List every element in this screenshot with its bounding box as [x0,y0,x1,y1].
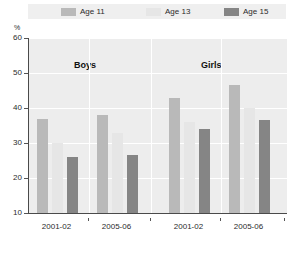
x-tick-label: 2001-02 [174,222,203,231]
bar-age-13-2001-02 [52,143,63,213]
gridline-vertical [151,38,152,213]
chart-legend: Age 11 Age 13 Age 15 [28,4,286,19]
group-label-boys: Boys [74,60,96,70]
gridline-horizontal [29,38,287,39]
bar-age-15-2005-06 [259,120,270,213]
bar-age-11-2005-06 [229,85,240,213]
x-tick-mark [88,218,89,221]
y-tick-label: 20 [13,174,22,182]
bar-age-15-2005-06 [127,155,138,213]
gridline-vertical [221,38,222,213]
bar-age-11-2001-02 [169,98,180,214]
legend-swatch-age-15 [224,8,239,16]
legend-label-age-11: Age 11 [80,8,105,16]
bar-age-13-2005-06 [112,133,123,214]
y-tick-label: 40 [13,104,22,112]
x-tick-label: 2005-06 [102,222,131,231]
x-tick-mark [284,218,285,221]
x-tick-label: 2001-02 [42,222,71,231]
x-tick-mark [220,218,221,221]
legend-swatch-age-13 [146,8,161,16]
plot-area: Boys Girls [28,38,287,214]
group-label-girls: Girls [201,60,222,70]
legend-label-age-15: Age 15 [243,8,268,16]
y-tick-label: 50 [13,69,22,77]
y-tick-label: 30 [13,139,22,147]
bar-age-13-2005-06 [244,108,255,213]
bar-age-13-2001-02 [184,122,195,213]
legend-item-age-11: Age 11 [61,4,105,19]
x-tick-mark [150,218,151,221]
y-axis: 605040302010 [0,30,28,220]
bar-age-11-2001-02 [37,119,48,214]
bar-age-15-2001-02 [67,157,78,213]
y-tick-label: 10 [13,209,22,217]
y-tick-label: 60 [13,34,22,42]
x-axis: 2001-022005-062001-022005-06 [28,218,286,232]
gridline-horizontal [29,73,287,74]
legend-label-age-13: Age 13 [165,8,190,16]
x-tick-label: 2005-06 [234,222,263,231]
legend-item-age-13: Age 13 [146,4,190,19]
bar-age-11-2005-06 [97,115,108,213]
legend-swatch-age-11 [61,8,76,16]
bar-age-15-2001-02 [199,129,210,213]
legend-item-age-15: Age 15 [224,4,268,19]
gridline-vertical [89,38,90,213]
